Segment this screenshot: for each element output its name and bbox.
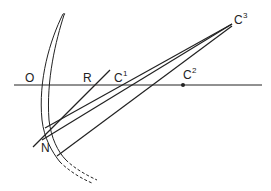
lens-arc-dashed-inner	[66, 160, 97, 180]
label-C1-sup: 1	[123, 69, 128, 78]
point-C2	[181, 83, 185, 87]
label-C2-sup: 2	[192, 66, 197, 75]
label-R: R	[83, 71, 92, 85]
label-C3: C	[234, 13, 243, 27]
lens-arc-dashed-outer	[60, 162, 92, 183]
ray-R-line	[33, 70, 110, 147]
lens-arc-tip	[63, 14, 65, 15]
lens-arc-outer	[41, 14, 63, 162]
ray-to-C3-upper	[42, 24, 232, 140]
label-C2: C	[183, 68, 192, 82]
label-O: O	[25, 71, 34, 85]
ray-to-C1	[57, 26, 232, 156]
label-N: N	[41, 141, 50, 155]
label-C1: C	[114, 71, 123, 85]
lens-arc-inner	[48, 15, 66, 160]
diagram-canvas: O R C 1 C 2 C 3 N	[0, 0, 271, 191]
label-C3-sup: 3	[243, 11, 248, 20]
ray-to-C3-lower	[45, 24, 232, 128]
